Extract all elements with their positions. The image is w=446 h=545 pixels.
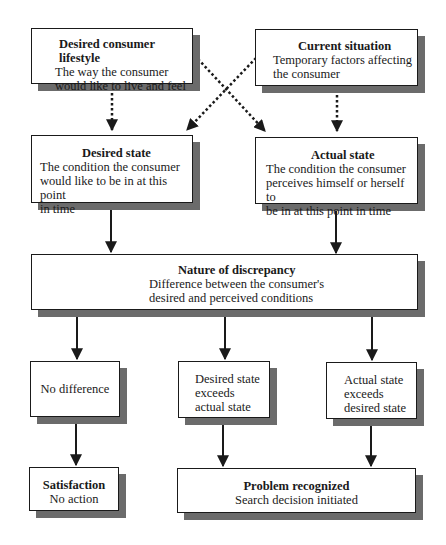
box-current-situation: Current situation Temporary factors affe… [255,29,418,86]
box-text: the consumer [273,67,417,81]
box-text: would like to be in at this point [40,174,192,202]
box-text: in time [40,202,192,216]
box-text: actual state [195,400,269,414]
box-text: The way the consumer [55,65,192,79]
box-desired-consumer-lifestyle: Desired consumer lifestyle The way the c… [31,28,193,84]
box-title: Actual state [266,148,417,162]
box-text: Temporary factors affecting [273,53,417,67]
box-text: No difference [31,382,119,396]
box-title: Satisfaction [30,478,118,492]
box-text: Search decision initiated [178,493,415,507]
box-actual-state: Actual state The condition the consumer … [255,137,418,204]
box-text: exceeds [344,387,416,401]
box-desired-exceeds-actual: Desired state exceeds actual state [178,361,270,418]
box-no-difference: No difference [30,361,120,417]
box-title: Current situation [273,39,417,53]
box-satisfaction: Satisfaction No action [29,467,119,511]
box-desired-state: Desired state The condition the consumer… [31,135,193,203]
box-text: exceeds [195,386,269,400]
box-title: Desired state [40,146,192,160]
box-text: Desired state [195,372,269,386]
box-title: Problem recognized [178,479,415,493]
box-text: desired state [344,401,416,415]
box-text: perceives himself or herself to [266,176,417,204]
box-text: No action [30,492,118,506]
box-text: would like to live and feel [55,79,192,93]
box-text: The condition the consumer [266,162,417,176]
box-text: Actual state [344,373,416,387]
dotted-arrow-situation-to-desired [187,58,256,130]
box-text: Difference between the consumer's [149,277,417,291]
box-title: Nature of discrepancy [149,263,417,277]
box-actual-exceeds-desired: Actual state exceeds desired state [326,362,417,419]
box-nature-of-discrepancy: Nature of discrepancy Difference between… [31,254,418,310]
box-title: Desired consumer lifestyle [55,37,192,65]
box-text: The condition the consumer [40,160,192,174]
box-text: desired and perceived conditions [149,291,417,305]
box-text: be in at this point in time [266,204,417,218]
box-problem-recognized: Problem recognized Search decision initi… [177,468,416,513]
